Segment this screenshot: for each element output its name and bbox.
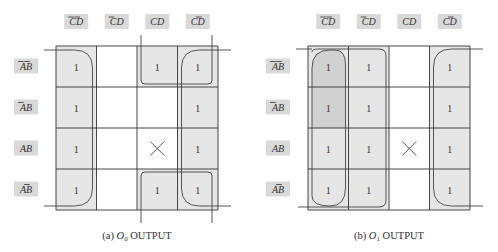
cell-value: 1 xyxy=(447,62,452,73)
row-label: AB xyxy=(271,61,284,72)
col-label: CD xyxy=(69,16,84,27)
cell-value: 1 xyxy=(74,185,79,196)
row-label: AB xyxy=(271,184,284,195)
cell-value: 1 xyxy=(366,103,371,114)
cell-value: 1 xyxy=(447,103,452,114)
dont-care-mark xyxy=(150,142,164,156)
col-label: CD xyxy=(191,16,206,27)
kmap-o0-output: 1111111111CDCDCDCDABABABAB(a) O0 OUTPUT xyxy=(14,14,231,243)
row-label: AB xyxy=(271,102,284,113)
cell-value: 1 xyxy=(74,62,79,73)
dont-care-mark xyxy=(402,142,416,156)
cell-value: 1 xyxy=(447,144,452,155)
kmap-o1-output: 111111111111CDCDCDCDABABABAB(b) O1 OUTPU… xyxy=(266,14,483,243)
karnaugh-maps-diagram: 1111111111CDCDCDCDABABABAB(a) O0 OUTPUT … xyxy=(0,0,498,252)
col-label: CD xyxy=(110,16,125,27)
cell-value: 1 xyxy=(447,185,452,196)
cell-value: 1 xyxy=(326,185,331,196)
cell-value: 1 xyxy=(366,62,371,73)
cell-value: 1 xyxy=(195,144,200,155)
cell-value: 1 xyxy=(155,62,160,73)
cell-value: 1 xyxy=(366,185,371,196)
col-label: CD xyxy=(443,16,458,27)
row-label: AB xyxy=(19,184,32,195)
row-label: AB xyxy=(19,143,32,154)
cell-value: 1 xyxy=(195,62,200,73)
cell-value: 1 xyxy=(326,62,331,73)
cell-value: 1 xyxy=(195,103,200,114)
row-label: AB xyxy=(19,61,32,72)
cell-value: 1 xyxy=(74,144,79,155)
cell-value: 1 xyxy=(74,103,79,114)
col-label: CD xyxy=(150,16,165,27)
cell-value: 1 xyxy=(366,144,371,155)
row-label: AB xyxy=(271,143,284,154)
cell-value: 1 xyxy=(326,144,331,155)
cell-value: 1 xyxy=(155,185,160,196)
map-caption: (a) O0 OUTPUT xyxy=(102,230,172,243)
col-label: CD xyxy=(402,16,417,27)
col-label: CD xyxy=(321,16,336,27)
row-label: AB xyxy=(19,102,32,113)
cell-value: 1 xyxy=(326,103,331,114)
map-caption: (b) O1 OUTPUT xyxy=(354,230,425,243)
col-label: CD xyxy=(362,16,377,27)
cell-value: 1 xyxy=(195,185,200,196)
